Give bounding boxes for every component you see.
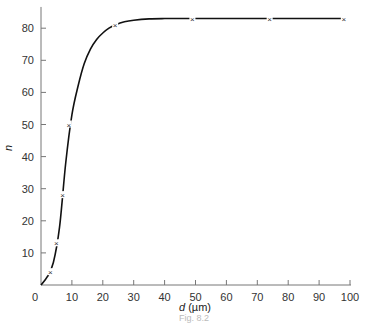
- data-curve: [41, 19, 344, 285]
- x-tick-label: 70: [251, 291, 263, 303]
- axes: 10203040506070800102030405060708090100: [22, 7, 359, 303]
- x-marker: ×: [341, 15, 346, 24]
- x-tick-label: 20: [97, 291, 109, 303]
- x-axis-label: d (µm): [179, 301, 211, 313]
- y-tick-label: 10: [22, 247, 34, 259]
- x-tick-label: 0: [32, 291, 38, 303]
- y-tick-label: 30: [22, 183, 34, 195]
- x-marker: ×: [190, 15, 195, 24]
- x-axis-label-unit: (µm): [188, 301, 211, 313]
- x-tick-label: 60: [220, 291, 232, 303]
- y-tick-label: 80: [22, 22, 34, 34]
- data-markers: ××××××××: [47, 15, 347, 278]
- x-axis-label-variable: d: [179, 301, 186, 313]
- y-axis-label: n: [2, 145, 14, 151]
- x-marker: ×: [60, 191, 65, 200]
- x-marker: ×: [66, 121, 71, 130]
- x-marker: ×: [267, 15, 272, 24]
- x-tick-label: 40: [158, 291, 170, 303]
- y-tick-label: 20: [22, 215, 34, 227]
- fitted-curve: [41, 19, 344, 285]
- y-tick-label: 40: [22, 151, 34, 163]
- x-tick-label: 10: [66, 291, 78, 303]
- x-tick-label: 100: [341, 291, 359, 303]
- chart: 10203040506070800102030405060708090100 ×…: [0, 0, 368, 323]
- y-tick-label: 70: [22, 54, 34, 66]
- x-tick-label: 80: [282, 291, 294, 303]
- figure-caption: Fig. 8.2: [179, 313, 209, 323]
- y-tick-label: 50: [22, 119, 34, 131]
- x-tick-label: 30: [128, 291, 140, 303]
- y-tick-label: 60: [22, 86, 34, 98]
- x-marker: ×: [113, 21, 118, 30]
- x-tick-label: 90: [313, 291, 325, 303]
- x-marker: ×: [54, 239, 59, 248]
- x-marker: ×: [48, 268, 53, 277]
